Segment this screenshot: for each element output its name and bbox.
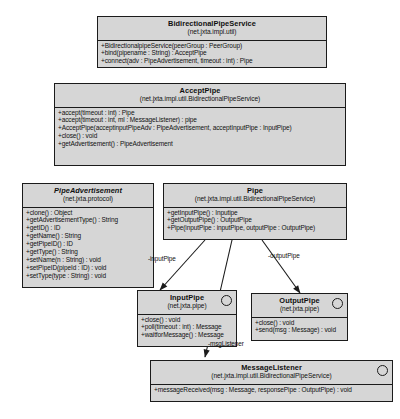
class-name: OutputPipe	[256, 296, 343, 305]
class-package: (net.jxta.pipe)	[142, 302, 232, 311]
association-label-inputpipe: -inputPipe	[148, 255, 176, 262]
operation: +getAdvertisement() : PipeAdvertisement	[57, 140, 343, 148]
class-box-outputpipe[interactable]: OutputPipe (net.jxta.pipe) +close() : vo…	[251, 293, 348, 341]
operation: +close() : void	[140, 316, 234, 324]
operation: +setType(type : String) : void	[25, 272, 151, 280]
operation: +getID() : ID	[25, 224, 151, 232]
class-header: InputPipe (net.jxta.pipe)	[138, 291, 236, 315]
operation: +waitforMessage() : Message	[140, 331, 234, 339]
edge-pipe-outputpipe	[262, 240, 300, 293]
operations-compartment: +close() : void +poll(timeout : int) : M…	[138, 315, 236, 342]
operation: +getName() : String	[25, 232, 151, 240]
class-header: BidirectionalPipeService (net.jxta.impl.…	[98, 17, 326, 41]
class-package: (net.jxta.impl.util)	[102, 28, 322, 37]
operation: +AcceptPipe(acceptinputPipeAdv : PipeAdv…	[57, 124, 343, 132]
operation: +accept(timeout : int) : Pipe	[57, 109, 343, 117]
class-header: Pipe (net.jxta.impl.util.BidirectionalPi…	[164, 184, 346, 208]
class-box-pipeadvertisement[interactable]: PipeAdvertisement (net.jxta.protocol) +c…	[22, 183, 154, 288]
class-name: AcceptPipe	[59, 86, 341, 95]
operations-compartment: +close() : void +send(msg : Message) : v…	[252, 318, 347, 337]
interface-circle-icon	[377, 365, 388, 376]
operations-compartment: +BidirectionalpipeService(peerGroup : Pe…	[98, 41, 326, 68]
operation: +setPipeID(pipeId : ID) : void	[25, 264, 151, 272]
class-package: (net.jxta.impl.util.BidirectionalPipeSer…	[59, 95, 341, 104]
class-package: (net.jxta.protocol)	[27, 195, 149, 204]
class-header: AcceptPipe (net.jxta.impl.util.Bidirecti…	[55, 84, 345, 108]
association-label-outputpipe: -outputPipe	[268, 252, 300, 259]
edge-pipe-inputpipe	[160, 240, 205, 290]
class-package: (net.jxta.pipe)	[256, 305, 343, 314]
class-name: PipeAdvertisement	[27, 186, 149, 195]
operation: +bind(pipename : String) : AcceptPipe	[100, 49, 324, 57]
operations-compartment: +messageReceived(msg : Message, response…	[151, 385, 392, 396]
class-box-inputpipe[interactable]: InputPipe (net.jxta.pipe) +close() : voi…	[137, 290, 237, 347]
class-box-messagelistener[interactable]: MessageListener (net.jxta.impl.util.Bidi…	[150, 360, 393, 402]
operation: +BidirectionalpipeService(peerGroup : Pe…	[100, 42, 324, 50]
operation: +getType() : String	[25, 248, 151, 256]
operation: +getOutputPipe() : OutputPipe	[166, 216, 344, 224]
class-header: PipeAdvertisement (net.jxta.protocol)	[23, 184, 153, 208]
interface-circle-icon	[332, 298, 343, 309]
class-name: InputPipe	[142, 293, 232, 302]
operation: +getInputPipe() : Inputipe	[166, 209, 344, 217]
operation: +clone() : Object	[25, 209, 151, 217]
class-box-acceptpipe[interactable]: AcceptPipe (net.jxta.impl.util.Bidirecti…	[54, 83, 346, 166]
operations-compartment: +accept(timeout : int) : Pipe +accept(ti…	[55, 108, 345, 151]
operation: +messageReceived(msg : Message, response…	[153, 386, 390, 394]
class-box-pipe[interactable]: Pipe (net.jxta.impl.util.BidirectionalPi…	[163, 183, 347, 240]
operations-compartment: +clone() : Object +getAdvertisementType(…	[23, 208, 153, 282]
class-header: MessageListener (net.jxta.impl.util.Bidi…	[151, 361, 392, 385]
class-name: MessageListener	[155, 363, 388, 372]
diagram-canvas: BidirectionalPipeService (net.jxta.impl.…	[0, 0, 400, 419]
class-name: Pipe	[168, 186, 342, 195]
association-label-msglistener: -msgListener	[208, 340, 244, 347]
operation: +accept(timeout : int, ml : MessageListe…	[57, 116, 343, 124]
operation: +close() : void	[57, 132, 343, 140]
operation: +close() : void	[254, 319, 345, 327]
operation: +send(msg : Message) : void	[254, 326, 345, 334]
operation: +Pipe(inputPipe : inputPipe, outputPipe …	[166, 224, 344, 232]
operation: +connect(adv : PipeAdvertisement, timeou…	[100, 57, 324, 65]
operation: +poll(timeout : int) : Message	[140, 323, 234, 331]
class-box-bidirectionalpipeservice[interactable]: BidirectionalPipeService (net.jxta.impl.…	[97, 16, 327, 68]
operation: +setName(n : String) : void	[25, 256, 151, 264]
operation: +getPipeID() : ID	[25, 240, 151, 248]
class-package: (net.jxta.impl.util.BidirectionalPipeSer…	[168, 195, 342, 204]
class-header: OutputPipe (net.jxta.pipe)	[252, 294, 347, 318]
interface-circle-icon	[221, 295, 232, 306]
class-name: BidirectionalPipeService	[102, 19, 322, 28]
class-package: (net.jxta.impl.util.BidirectionalPipeSer…	[155, 372, 388, 381]
operations-compartment: +getInputPipe() : Inputipe +getOutputPip…	[164, 208, 346, 235]
operation: +getAdvertisementType() : String	[25, 216, 151, 224]
